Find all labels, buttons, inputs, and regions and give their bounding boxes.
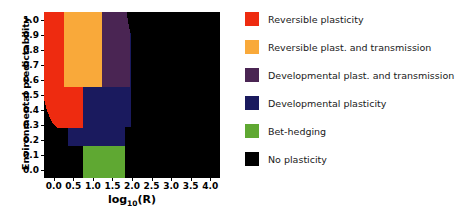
x-axis-tick-mark [210, 178, 211, 181]
legend-item-label: Bet-hedging [268, 126, 326, 137]
region-reversible_plast_transmission [64, 12, 102, 87]
legend-color-swatch [245, 12, 259, 26]
x-axis-tick-mark [73, 178, 74, 181]
legend-item-label: Reversible plasticity [268, 14, 364, 25]
region-bet_hedging [83, 146, 125, 178]
x-axis-tick-label: 2.0 [124, 181, 140, 191]
x-axis-title-tail: (R) [138, 193, 157, 206]
x-axis-tick-label: 2.5 [144, 181, 160, 191]
legend-color-swatch [245, 68, 259, 82]
x-axis-tick-mark [112, 178, 113, 181]
legend-item-label: Reversible plast. and transmission [268, 42, 431, 53]
heatmap-svg [44, 12, 220, 178]
legend-color-swatch [245, 40, 259, 54]
legend-item: Bet-hedging [245, 122, 461, 140]
x-axis-title: log10(R) [44, 193, 220, 208]
x-axis-tick-label: 3.5 [183, 181, 199, 191]
legend-item-label: Developmental plasticity [268, 98, 386, 109]
x-axis-tick-label: 1.0 [85, 181, 101, 191]
legend-item: Reversible plast. and transmission [245, 38, 461, 56]
x-axis-tick-label: 1.5 [104, 181, 120, 191]
legend-color-swatch [245, 152, 259, 166]
legend-color-swatch [245, 124, 259, 138]
x-axis-tick-label: 0.0 [46, 181, 62, 191]
x-axis-title-base: log [108, 193, 127, 206]
x-axis-tick-mark [54, 178, 55, 181]
x-axis-tick-mark [93, 178, 94, 181]
x-axis-tick-mark [191, 178, 192, 181]
x-axis-tick-mark [152, 178, 153, 181]
figure-container: 0.00.51.01.52.02.53.03.54.00.00.10.20.30… [0, 0, 464, 217]
x-axis-tick-label: 3.0 [163, 181, 179, 191]
legend: Reversible plasticityReversible plast. a… [245, 10, 461, 178]
legend-item-label: No plasticity [268, 154, 327, 165]
y-axis-title: Environmental predictability [20, 11, 31, 177]
x-axis-tick-label: 0.5 [65, 181, 81, 191]
x-axis-tick-mark [132, 178, 133, 181]
x-axis-tick-mark [171, 178, 172, 181]
legend-item-label: Developmental plast. and transmission [268, 70, 454, 81]
x-axis-title-subscript: 10 [127, 199, 137, 208]
heatmap-plot-area [44, 12, 220, 178]
x-axis-tick-label: 4.0 [202, 181, 218, 191]
region-developmental_plast_transmission [102, 12, 130, 87]
legend-item: No plasticity [245, 150, 461, 168]
legend-item: Developmental plast. and transmission [245, 66, 461, 84]
legend-item: Reversible plasticity [245, 10, 461, 28]
legend-item: Developmental plasticity [245, 94, 461, 112]
legend-color-swatch [245, 96, 259, 110]
